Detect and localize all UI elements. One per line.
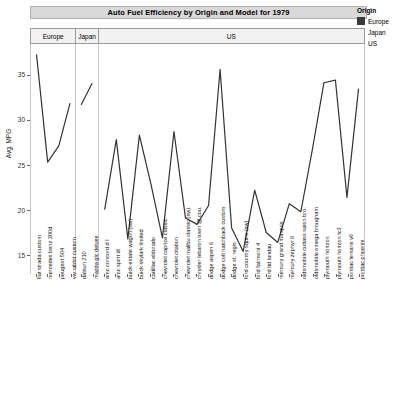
y-axis-tick-label: 20 — [18, 207, 25, 214]
series-line-japan — [82, 84, 93, 105]
y-axis-title: Avg. MPG — [5, 120, 12, 168]
x-axis-tick-label: pontiac lemans v6 — [348, 234, 354, 279]
x-axis-tick-label: chevrolet malibu classic (sw) — [185, 208, 191, 279]
x-axis-tick-label: dodge st. regis — [231, 242, 237, 279]
chart-root: Auto Fuel Efficiency by Origin and Model… — [0, 0, 403, 401]
x-axis-tick-label: chevrolet citation — [173, 237, 179, 279]
x-axis-panel-japan: datsun 210mazda glc deluxe — [75, 274, 98, 374]
x-axis-tick-label: ford country squire (sw) — [243, 221, 249, 279]
x-axis-tick-label: fiat strada custom — [36, 235, 42, 279]
page-title: Auto Fuel Efficiency by Origin and Model… — [107, 8, 289, 17]
x-axis-tick-label: peugeot 504 — [59, 248, 65, 279]
x-axis-tick-label: buick estate wagon (sw) — [127, 219, 133, 279]
x-axis-tick-label: datsun 210 — [81, 251, 87, 279]
x-axis-tick-label: buick skylark limited — [138, 229, 144, 279]
x-axis-tick-label: dodge colt hatchback custom — [220, 207, 226, 279]
y-axis: Avg. MPG 1520253035 — [0, 44, 30, 274]
legend-item-label: Japan — [368, 29, 386, 36]
x-axis-tick-label: pontiac phoenix — [359, 240, 365, 279]
x-axis-panel-europe: fiat strada custommercedes benz 300dpeug… — [30, 274, 76, 374]
x-axis-tick-label: mercury zephyr 6 — [289, 236, 295, 279]
x-axis-tick-label: cadillac eldorado — [150, 237, 156, 279]
x-axis-tick-label: vw rabbit custom — [71, 237, 77, 279]
panel-header-row: EuropeJapanUS — [30, 28, 367, 44]
x-axis-tick-label: amc spirit dl — [115, 249, 121, 279]
x-axis-tick-label: ford fairmont 4 — [255, 243, 261, 279]
panel-header-japan: Japan — [75, 28, 98, 44]
y-axis-tick-label: 15 — [18, 252, 25, 259]
panel-header-label: Europe — [43, 33, 64, 40]
x-axis-tick-label: oldsmobile omega brougham — [313, 207, 319, 279]
legend-item-label: US — [368, 40, 377, 47]
chart-title-bar: Auto Fuel Efficiency by Origin and Model… — [30, 6, 367, 19]
x-axis-tick-label: plymouth horizon — [324, 236, 330, 279]
x-axis-tick-label: chrysler lebaron town @ cou. — [196, 206, 202, 279]
legend-item-label: Europe — [368, 18, 389, 25]
x-axis-tick-label: dodge aspen 6 — [208, 242, 214, 279]
series-line-us — [104, 69, 358, 251]
x-axis-tick-label: mercedes benz 300d — [47, 227, 53, 279]
x-axis-tick-label: ford ltd landau — [266, 244, 272, 279]
panel-header-europe: Europe — [30, 28, 76, 44]
x-axis-panel-us: amc concord d lamc spirit dlbuick estate… — [98, 274, 365, 374]
panel-header-label: Japan — [78, 33, 96, 40]
x-axis-tick-label: oldsmobile cutlass salon bro. — [301, 207, 307, 279]
panel-header-label: US — [227, 33, 236, 40]
x-axis-tick-label: plymouth horizon tc3 — [336, 227, 342, 279]
x-axis-tick-label: chevrolet caprice classic — [162, 218, 168, 279]
x-axis-tick-label: mazda glc deluxe — [93, 235, 99, 279]
panel-header-us: US — [98, 28, 365, 44]
x-axis-tick-label: amc concord d l — [104, 240, 110, 279]
y-axis-tick-label: 25 — [18, 162, 25, 169]
y-axis-tick-label: 35 — [18, 72, 25, 79]
legend-item[interactable]: Europe — [357, 17, 403, 25]
legend-swatch-icon — [357, 17, 365, 25]
x-axis: fiat strada custommercedes benz 300dpeug… — [30, 274, 367, 374]
series-line-europe — [37, 55, 70, 162]
legend-title: Origin — [357, 7, 403, 14]
x-axis-tick-label: mercury grand marquis — [278, 221, 284, 279]
y-axis-tick-label: 30 — [18, 117, 25, 124]
